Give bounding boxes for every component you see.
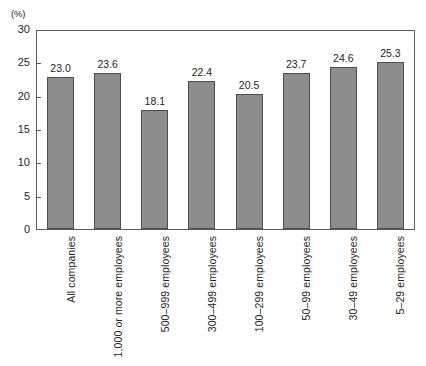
- y-axis-unit-label: (%): [11, 8, 25, 19]
- bar: [94, 73, 121, 229]
- x-axis-tick-label: All companies: [65, 236, 77, 303]
- y-axis-tick-label: 25: [18, 56, 30, 68]
- bar-value-label: 23.6: [97, 58, 117, 70]
- bar: [47, 77, 74, 229]
- bar-value-label: 25.3: [380, 47, 400, 59]
- bar-slot: 24.6: [330, 31, 357, 229]
- bar-slot: 23.6: [94, 31, 121, 229]
- bars-group: 23.023.618.122.420.523.724.625.3: [37, 31, 414, 229]
- x-axis-tick-label: 5–29 employees: [394, 236, 406, 314]
- bar: [283, 73, 310, 229]
- bar-chart: (%) 051015202530 23.023.618.122.420.523.…: [0, 0, 426, 366]
- y-axis-tick-label: 20: [18, 90, 30, 102]
- bar: [141, 110, 168, 229]
- bar-value-label: 22.4: [192, 66, 212, 78]
- bar-value-label: 24.6: [333, 52, 353, 64]
- bar-slot: 20.5: [236, 31, 263, 229]
- x-axis-labels: All companies1,000 or more employees500–…: [37, 236, 414, 364]
- x-axis-tick-label: 100–299 employees: [253, 236, 265, 332]
- y-axis-tick-label: 15: [18, 123, 30, 135]
- bar-value-label: 20.5: [239, 79, 259, 91]
- bar-slot: 25.3: [377, 31, 404, 229]
- y-axis-tick-label: 10: [18, 156, 30, 168]
- bar-value-label: 18.1: [145, 95, 165, 107]
- y-axis-tick-label: 0: [24, 223, 30, 235]
- x-axis-tick-label: 300–499 employees: [206, 236, 218, 332]
- x-axis-tick-label: 1,000 or more employees: [112, 236, 124, 357]
- bar: [330, 67, 357, 229]
- bar-slot: 18.1: [141, 31, 168, 229]
- y-axis-tick-label: 30: [18, 23, 30, 35]
- x-axis-tick-label: 30–49 employees: [347, 236, 359, 320]
- bar-slot: 23.0: [47, 31, 74, 229]
- x-axis-tick-label: 500–999 employees: [159, 236, 171, 332]
- bar: [236, 94, 263, 229]
- bar-value-label: 23.0: [50, 62, 70, 74]
- bar-slot: 23.7: [283, 31, 310, 229]
- bar: [188, 81, 215, 229]
- y-axis-tick-label: 5: [24, 190, 30, 202]
- x-axis-tick-label: 50–99 employees: [300, 236, 312, 320]
- bar: [377, 62, 404, 229]
- bar-value-label: 23.7: [286, 58, 306, 70]
- bar-slot: 22.4: [188, 31, 215, 229]
